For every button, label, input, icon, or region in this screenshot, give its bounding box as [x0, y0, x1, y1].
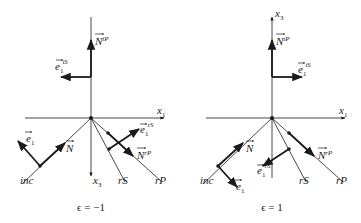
N-iP-label: NiP [94, 34, 109, 47]
svg-text:N: N [245, 142, 254, 154]
panel-epsilon-plus-1: x1 x3 NiP e1iS e1 N e1rS NrP inc rS rP [200, 7, 348, 213]
e1-label: e1 [25, 132, 35, 147]
reflection-diagram: x1 x3 NiP e1iS e1 N e1rS NrP inc rS rP [0, 0, 361, 223]
e1-rS-label: e1rS [140, 121, 154, 138]
incident-point [216, 164, 220, 168]
N-label: N [245, 141, 254, 154]
e1-vector [18, 141, 40, 166]
N-iP-label: NiP [275, 34, 290, 47]
rS-label: rS [299, 174, 309, 186]
svg-text:e1: e1 [26, 132, 35, 147]
rP-label: rP [155, 174, 166, 186]
inc-label: inc [20, 174, 34, 186]
rS-label: rS [118, 174, 128, 186]
rS-point [107, 147, 111, 151]
rP-label: rP [336, 174, 347, 186]
e1-iS-label: e1iS [298, 61, 311, 78]
rP-point [287, 131, 291, 135]
origin-point [270, 116, 274, 120]
caption-epsilon-plus-1: ϵ = 1 [261, 201, 283, 213]
e1-label: e1 [235, 180, 245, 195]
N-rP-vector [289, 133, 314, 156]
x3-label: x3 [92, 174, 102, 189]
incident-point [38, 164, 42, 168]
N-vector [40, 143, 65, 166]
svg-text:e1: e1 [236, 180, 245, 195]
panel-epsilon-minus-1: x1 x3 NiP e1iS e1 N e1rS NrP inc rS rP [18, 17, 166, 213]
inc-label: inc [200, 174, 214, 186]
N-rP-label: NrP [317, 148, 333, 161]
e1-vector [218, 166, 237, 187]
x3-label: x3 [274, 7, 284, 22]
svg-text:e1rS: e1rS [257, 162, 271, 179]
origin-point [89, 116, 93, 120]
svg-text:e1iS: e1iS [298, 61, 311, 78]
svg-text:e1iS: e1iS [55, 58, 68, 75]
e1-iS-label: e1iS [55, 58, 68, 75]
e1-rS-label: e1rS [257, 162, 271, 179]
svg-text:NiP: NiP [94, 35, 109, 47]
x1-label: x1 [156, 104, 166, 119]
svg-text:NiP: NiP [275, 35, 290, 47]
rS-point [287, 147, 291, 151]
N-vector [218, 143, 243, 166]
svg-text:N: N [65, 142, 74, 154]
svg-text:NrP: NrP [317, 149, 333, 161]
N-label: N [65, 141, 74, 154]
svg-text:NrP: NrP [136, 149, 152, 161]
svg-text:e1rS: e1rS [140, 121, 154, 138]
x1-label: x1 [338, 104, 348, 119]
caption-epsilon-minus-1: ϵ = −1 [77, 201, 105, 213]
N-rP-label: NrP [136, 148, 152, 161]
rP-point [106, 131, 110, 135]
